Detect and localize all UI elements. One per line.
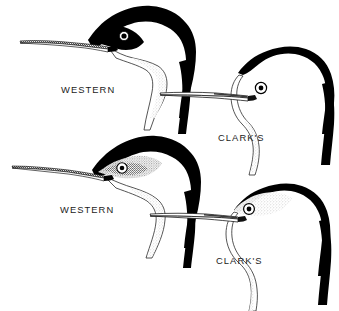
label-western-bottom: WESTERN — [60, 204, 114, 215]
illustration-plate: WESTERN CLARK'S WESTERN CLARK'S — [0, 0, 339, 311]
label-western-top: WESTERN — [61, 84, 115, 95]
western-breeding-eye — [119, 31, 128, 40]
clarks-winter-eye — [244, 204, 255, 215]
label-clarks-top: CLARK'S — [218, 132, 265, 143]
clarks-breeding-eye — [255, 82, 266, 93]
plate-canvas: WESTERN CLARK'S WESTERN CLARK'S — [0, 0, 339, 311]
label-clarks-bottom: CLARK'S — [216, 255, 263, 266]
western-winter-eye — [117, 163, 127, 173]
